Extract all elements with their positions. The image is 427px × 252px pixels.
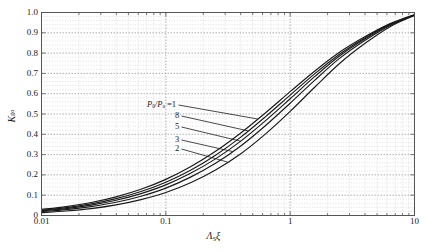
chart-figure: Kgo 00.10.20.30.40.50.60.70.80.91.0 0.01… xyxy=(0,0,427,252)
leader-line-8 xyxy=(182,116,249,131)
plot-area xyxy=(0,0,427,252)
curve-1 xyxy=(42,15,415,210)
curve-annotation-1-value: 1 xyxy=(172,99,176,109)
curve-annotation-2: 2 xyxy=(175,144,179,153)
curve-annotation-1: P0/Pa =1 xyxy=(147,100,176,111)
curve-annotation-5: 5 xyxy=(175,122,179,131)
leader-line-1 xyxy=(179,105,258,119)
curve-annotation-8: 8 xyxy=(175,111,179,120)
